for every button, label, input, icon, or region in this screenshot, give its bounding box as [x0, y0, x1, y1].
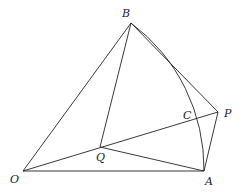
- segment-PA: [204, 112, 218, 171]
- diagram-canvas: [0, 0, 245, 192]
- geometry-diagram: B P C Q O A: [0, 0, 245, 192]
- segment-QA: [100, 147, 204, 171]
- label-P: P: [224, 108, 231, 119]
- segment-OB: [23, 23, 131, 171]
- label-A: A: [205, 176, 213, 187]
- label-C: C: [183, 110, 191, 121]
- label-B: B: [122, 8, 130, 19]
- segment-BQ: [100, 23, 131, 147]
- label-O: O: [10, 174, 19, 185]
- label-Q: Q: [96, 152, 105, 163]
- segment-BP: [131, 23, 218, 112]
- arc-BA: [131, 23, 204, 171]
